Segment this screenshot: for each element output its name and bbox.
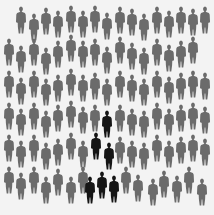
person-silhouette-icon — [126, 140, 137, 168]
person-silhouette-icon — [199, 6, 210, 34]
person-silhouette-icon — [158, 170, 169, 198]
person-silhouette-icon — [40, 110, 51, 138]
person-silhouette-icon — [28, 70, 39, 98]
person-silhouette-icon — [163, 44, 174, 72]
person-silhouette-highlighted-icon — [103, 142, 114, 170]
person-silhouette-icon — [3, 134, 14, 162]
person-silhouette-icon — [28, 102, 39, 130]
person-silhouette-icon — [28, 166, 39, 194]
person-silhouette-icon — [163, 140, 174, 168]
person-silhouette-highlighted-icon — [84, 176, 95, 204]
person-silhouette-icon — [40, 142, 51, 170]
person-silhouette-icon — [126, 8, 137, 36]
person-silhouette-icon — [52, 74, 63, 102]
person-silhouette-icon — [15, 45, 26, 73]
person-silhouette-icon — [65, 100, 76, 128]
person-silhouette-icon — [3, 38, 14, 66]
person-silhouette-icon — [183, 166, 194, 194]
person-silhouette-icon — [147, 178, 158, 206]
person-silhouette-icon — [126, 74, 137, 102]
person-silhouette-icon — [114, 104, 125, 132]
person-silhouette-icon — [138, 110, 149, 138]
person-silhouette-icon — [28, 13, 39, 41]
person-silhouette-icon — [151, 70, 162, 98]
person-silhouette-icon — [187, 102, 198, 130]
person-silhouette-icon — [77, 40, 88, 68]
person-silhouette-icon — [151, 134, 162, 162]
person-silhouette-icon — [120, 166, 131, 194]
person-silhouette-icon — [132, 174, 143, 202]
person-silhouette-icon — [138, 47, 149, 75]
person-silhouette-icon — [15, 6, 26, 34]
person-silhouette-icon — [114, 6, 125, 34]
person-silhouette-icon — [114, 36, 125, 64]
person-silhouette-icon — [114, 70, 125, 98]
person-silhouette-icon — [52, 104, 63, 132]
person-silhouette-icon — [40, 176, 51, 204]
person-silhouette-icon — [89, 72, 100, 100]
person-silhouette-icon — [89, 104, 100, 132]
person-silhouette-icon — [163, 76, 174, 104]
person-silhouette-icon — [40, 78, 51, 106]
person-silhouette-icon — [15, 140, 26, 168]
person-silhouette-highlighted-icon — [108, 175, 119, 203]
person-silhouette-icon — [101, 78, 112, 106]
person-silhouette-highlighted-icon — [96, 171, 107, 199]
person-silhouette-icon — [52, 138, 63, 166]
person-silhouette-icon — [151, 38, 162, 66]
person-silhouette-icon — [89, 38, 100, 66]
person-silhouette-icon — [175, 104, 186, 132]
person-silhouette-icon — [77, 140, 88, 168]
person-silhouette-icon — [138, 78, 149, 106]
person-silhouette-icon — [171, 175, 182, 203]
person-silhouette-icon — [65, 68, 76, 96]
person-silhouette-icon — [138, 142, 149, 170]
person-silhouette-icon — [40, 47, 51, 75]
person-silhouette-icon — [151, 6, 162, 34]
person-silhouette-icon — [65, 5, 76, 33]
person-silhouette-icon — [199, 106, 210, 134]
person-silhouette-icon — [187, 70, 198, 98]
person-silhouette-icon — [3, 166, 14, 194]
person-silhouette-icon — [15, 108, 26, 136]
person-silhouette-icon — [187, 134, 198, 162]
person-silhouette-icon — [40, 7, 51, 35]
person-silhouette-icon — [199, 72, 210, 100]
person-silhouette-icon — [114, 136, 125, 164]
person-silhouette-highlighted-icon — [101, 110, 112, 138]
person-silhouette-icon — [199, 138, 210, 166]
person-silhouette-icon — [15, 172, 26, 200]
person-silhouette-icon — [196, 178, 207, 206]
person-silhouette-icon — [175, 6, 186, 34]
person-silhouette-icon — [77, 106, 88, 134]
crowd-image — [0, 0, 214, 215]
person-silhouette-icon — [52, 40, 63, 68]
person-silhouette-icon — [52, 168, 63, 196]
person-silhouette-icon — [151, 102, 162, 130]
person-silhouette-icon — [175, 136, 186, 164]
person-silhouette-icon — [163, 108, 174, 136]
person-silhouette-icon — [126, 42, 137, 70]
person-silhouette-icon — [175, 72, 186, 100]
person-silhouette-icon — [65, 176, 76, 204]
person-silhouette-icon — [3, 70, 14, 98]
person-silhouette-icon — [126, 108, 137, 136]
person-silhouette-icon — [101, 46, 112, 74]
person-silhouette-icon — [3, 102, 14, 130]
person-silhouette-icon — [65, 34, 76, 62]
person-silhouette-highlighted-icon — [90, 132, 101, 160]
person-silhouette-icon — [138, 13, 149, 41]
person-silhouette-icon — [65, 132, 76, 160]
person-silhouette-icon — [28, 134, 39, 162]
person-silhouette-icon — [101, 12, 112, 40]
person-silhouette-icon — [163, 10, 174, 38]
person-silhouette-icon — [28, 38, 39, 66]
person-silhouette-icon — [175, 40, 186, 68]
person-silhouette-icon — [77, 10, 88, 38]
person-silhouette-icon — [187, 8, 198, 36]
person-silhouette-icon — [52, 10, 63, 38]
person-silhouette-icon — [89, 5, 100, 33]
person-silhouette-icon — [15, 77, 26, 105]
person-silhouette-icon — [77, 74, 88, 102]
person-silhouette-icon — [187, 36, 198, 64]
